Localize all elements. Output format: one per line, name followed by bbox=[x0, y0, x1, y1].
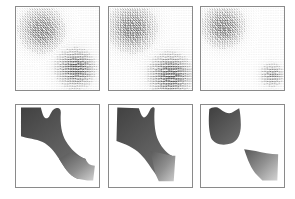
figure-canvas bbox=[0, 0, 295, 199]
quiver-panel-1 bbox=[15, 6, 100, 91]
shape-panel-2 bbox=[108, 104, 193, 188]
region-plot-3 bbox=[201, 105, 284, 187]
shape-panel-3 bbox=[200, 104, 285, 188]
plot-background bbox=[201, 7, 284, 90]
quiver-panel-3 bbox=[200, 6, 285, 91]
figure-row-segmentations bbox=[0, 99, 295, 199]
quiver-plot-3 bbox=[201, 7, 284, 90]
quiver-plot-1 bbox=[16, 7, 99, 90]
figure-row-vector-fields bbox=[0, 0, 295, 99]
quiver-panel-2 bbox=[108, 6, 193, 91]
quiver-plot-2 bbox=[109, 7, 192, 90]
shape-panel-1 bbox=[15, 104, 100, 188]
region-upper-left-blob bbox=[209, 107, 241, 144]
region-plot-1 bbox=[16, 105, 99, 187]
region-plot-2 bbox=[109, 105, 192, 187]
